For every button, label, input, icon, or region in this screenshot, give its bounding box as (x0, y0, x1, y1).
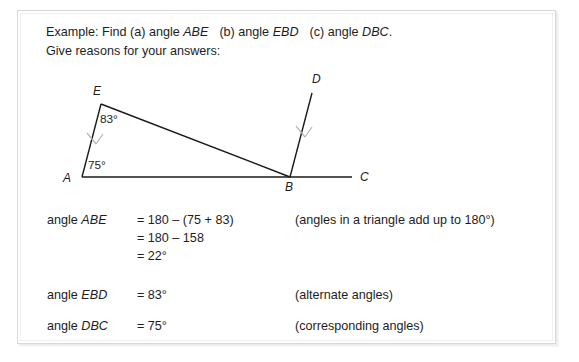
solution-reason: (alternate angles) (295, 287, 393, 304)
solution-reason: (angles in a triangle add up to 180°) (295, 212, 495, 229)
point-label-b: B (285, 180, 293, 194)
prompt-suffix: . (389, 25, 393, 39)
prompt-angle-label-c: DBC (362, 25, 389, 39)
point-label-d: D (312, 72, 321, 86)
solution-expression: = 83° (137, 287, 167, 304)
prompt-angle-label-a: ABE (183, 25, 208, 39)
solution-angle-word: angle (47, 288, 81, 302)
point-label-c: C (360, 170, 369, 184)
angle-at-E: 83° (100, 112, 118, 126)
solution-row-name: angle EBD (47, 287, 107, 304)
prompt-prefix: Example: Find (a) angle (46, 25, 183, 39)
point-label-a: A (63, 171, 71, 185)
prompt-mid-c: (c) angle (310, 25, 363, 39)
solution-expression: = 22° (137, 248, 167, 265)
solution-reason: (corresponding angles) (295, 318, 424, 335)
worksheet-page: Example: Find (a) angle ABE(b) angle EBD… (0, 0, 579, 362)
solution-expression: = 180 – 158 (137, 230, 204, 247)
solution-expression: = 180 – (75 + 83) (137, 212, 234, 229)
solution-angle-word: angle (47, 213, 81, 227)
example-prompt-line-1: Example: Find (a) angle ABE(b) angle EBD… (46, 23, 392, 42)
solution-row-name: angle DBC (47, 318, 108, 335)
solution-angle-label: DBC (81, 319, 108, 333)
solution-row-name: angle ABE (47, 212, 107, 229)
prompt-angle-label-b: EBD (273, 25, 299, 39)
solution-angle-label: ABE (81, 213, 106, 227)
angle-at-A: 75° (88, 158, 106, 172)
example-prompt-line-2: Give reasons for your answers: (46, 42, 220, 61)
solution-angle-label: EBD (81, 288, 107, 302)
prompt-mid-b: (b) angle (219, 25, 272, 39)
solution-angle-word: angle (47, 319, 81, 333)
point-label-e: E (93, 84, 101, 98)
solution-expression: = 75° (137, 318, 167, 335)
